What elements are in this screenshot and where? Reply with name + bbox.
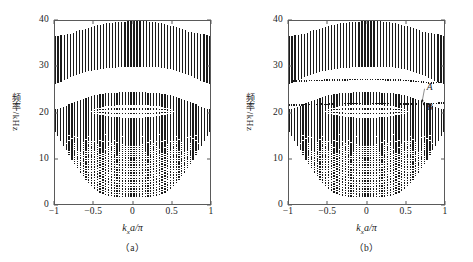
panel-a: 010203040 频率/kHz kxa/π （a） −1−0.500.51	[0, 0, 236, 262]
y-tick-label: 10	[273, 154, 283, 164]
x-tick-label: −0.5	[84, 207, 102, 217]
leader-line-a-mode	[422, 89, 424, 101]
y-tick-label: 30	[273, 62, 283, 72]
y-axis-label-b: 频率/kHz	[240, 93, 254, 132]
x-tick-label: 0	[364, 207, 369, 217]
y-tick-label: 20	[39, 108, 49, 118]
x-axis-label-rest-b: a/π	[364, 222, 377, 233]
panel-caption-a: （a）	[54, 240, 211, 254]
y-axis-label-a: 频率/kHz	[6, 93, 20, 132]
y-tick-label: 40	[39, 15, 49, 25]
annotation-label-a-mode: A	[427, 83, 433, 93]
annotation-label-b-mode: B	[427, 103, 433, 113]
y-tick-label: 40	[273, 15, 283, 25]
x-tick-label: 0	[130, 207, 135, 217]
y-tick-label: 30	[39, 62, 49, 72]
x-axis-label-rest-a: a/π	[130, 222, 143, 233]
x-axis-label-a: kxa/π	[54, 222, 211, 236]
y-tick-label: 20	[273, 108, 283, 118]
x-tick-label: −1	[49, 207, 60, 217]
x-tick-label: 1	[209, 207, 214, 217]
panel-b: 010203040 频率/kHz kxa/π （b） A B −1−0.500.…	[234, 0, 470, 262]
x-axis-label-b: kxa/π	[288, 222, 445, 236]
plot-area-a	[54, 20, 211, 205]
panel-caption-b: （b）	[288, 240, 445, 254]
y-tick-label: 10	[39, 154, 49, 164]
x-tick-label: −0.5	[318, 207, 336, 217]
x-tick-label: 0.5	[166, 207, 178, 217]
band-curves-a	[55, 21, 210, 204]
x-tick-label: 0.5	[400, 207, 412, 217]
band-structure-figure: 010203040 频率/kHz kxa/π （a） −1−0.500.51 0…	[0, 0, 473, 262]
band-curves-b	[289, 21, 444, 204]
x-tick-label: −1	[283, 207, 294, 217]
annotation-anchor-point	[421, 100, 423, 102]
plot-area-b	[288, 20, 445, 205]
x-tick-label: 1	[443, 207, 448, 217]
